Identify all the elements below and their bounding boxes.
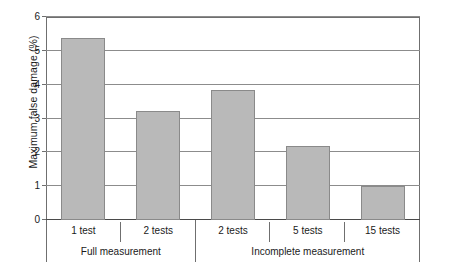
group-label: Full measurement — [46, 241, 196, 262]
y-tick-label-5: 5 — [34, 44, 40, 55]
bar-slot — [270, 17, 345, 220]
bar-2-tests-1[interactable] — [136, 111, 180, 220]
y-tick-label-4: 4 — [34, 78, 40, 89]
category-label: 15 tests — [345, 220, 420, 241]
y-tick-label-6: 6 — [34, 11, 40, 22]
bar-15-tests-4[interactable] — [361, 186, 405, 221]
category-label-text: 15 tests — [365, 225, 400, 236]
y-tick-label-1: 1 — [34, 180, 40, 191]
y-tick-label-2: 2 — [34, 146, 40, 157]
group-axis: Full measurementIncomplete measurement — [46, 241, 420, 262]
bar-slot — [196, 17, 271, 220]
category-label: 5 tests — [270, 220, 345, 241]
bar-2-tests-2[interactable] — [211, 90, 255, 220]
category-label: 1 test — [46, 220, 121, 241]
bar-1-test-0[interactable] — [61, 38, 105, 220]
y-tick-label-3: 3 — [34, 112, 40, 123]
y-tick-label-0: 0 — [34, 214, 40, 225]
category-label-text: 1 test — [71, 225, 95, 236]
category-label-text: 2 tests — [143, 225, 172, 236]
category-label-text: 5 tests — [293, 225, 322, 236]
y-axis-title: Maximum false damage (%) — [27, 7, 39, 197]
category-label: 2 tests — [196, 220, 271, 241]
figure: Maximum false damage (%) 0123456 1 test2… — [0, 0, 456, 275]
category-label: 2 tests — [121, 220, 196, 241]
group-label-text: Incomplete measurement — [251, 246, 364, 257]
category-axis: 1 test2 tests2 tests5 tests15 tests — [46, 220, 420, 241]
group-label-text: Full measurement — [81, 246, 161, 257]
category-label-text: 2 tests — [218, 225, 247, 236]
group-label: Incomplete measurement — [196, 241, 420, 262]
bar-series — [46, 17, 420, 220]
bar-slot — [345, 17, 420, 220]
figure-caption — [6, 266, 446, 275]
bar-5-tests-3[interactable] — [286, 146, 330, 220]
bar-slot — [121, 17, 196, 220]
plot-area: 0123456 — [46, 17, 420, 220]
bar-slot — [46, 17, 121, 220]
